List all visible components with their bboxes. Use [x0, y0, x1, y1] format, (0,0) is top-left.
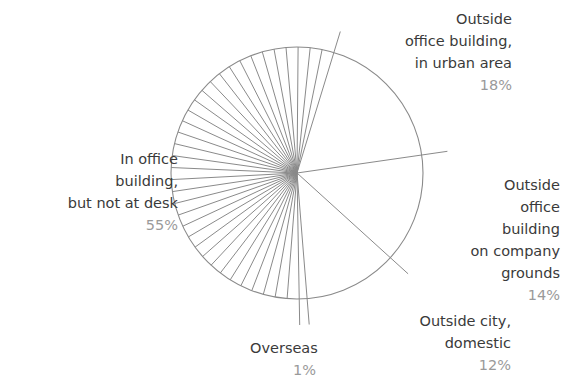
- label-urban-area: Outside office building, in urban area 1…: [405, 8, 512, 96]
- label-domestic: Outside city, domestic 12%: [420, 310, 511, 376]
- label-company-grounds: Outside office building on company groun…: [471, 174, 561, 306]
- label-in-office: In office building, but not at desk 55%: [68, 148, 178, 236]
- hatch-line: [297, 47, 298, 173]
- hatch-line: [297, 50, 322, 174]
- percent-urban-area: 18%: [405, 74, 512, 96]
- hatch-line: [203, 173, 297, 257]
- label-overseas: Overseas 1%: [250, 337, 316, 381]
- hatch-line: [275, 173, 297, 297]
- slice-boundary-line: [297, 151, 447, 173]
- percent-domestic: 12%: [420, 354, 511, 376]
- hatch-line: [202, 90, 297, 173]
- hatch-line: [194, 100, 297, 173]
- hatch-line: [220, 173, 297, 273]
- hatch-line: [297, 48, 310, 173]
- slice-boundary-line: [297, 32, 340, 174]
- hatch-line: [219, 74, 297, 173]
- slice-boundary-line: [297, 173, 408, 274]
- hatch-line: [195, 173, 297, 247]
- percent-company-grounds: 14%: [471, 284, 561, 306]
- percent-in-office: 55%: [68, 214, 178, 236]
- percent-overseas: 1%: [250, 359, 316, 381]
